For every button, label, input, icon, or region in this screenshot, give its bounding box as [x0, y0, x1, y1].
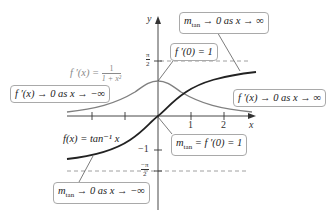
y-axis-label: y	[147, 13, 151, 24]
callout-mtan-neg: mtan → 0 as x → −∞	[53, 182, 150, 204]
y-tick-pi-half: π 2	[146, 51, 150, 68]
x-axis-label: x	[249, 119, 253, 130]
callout-fprime-pos: f ′(x) → 0 as x → ∞	[233, 89, 326, 107]
callout-fprime-neg: f ′(x) → 0 as x → −∞	[10, 85, 110, 103]
callout-f0: f ′(0) = 1	[170, 43, 218, 61]
y-tick-neg1: −1	[138, 143, 149, 154]
x-tick-1: 1	[188, 119, 193, 130]
y-tick-neg-pi-half: −π 2	[141, 161, 149, 178]
callout-mtan-eq: mtan = f ′(0) = 1	[171, 134, 247, 156]
arctan-label: f(x) = tan⁻¹ x	[63, 132, 119, 144]
y-axis-arrow-icon	[155, 16, 161, 24]
callout-mtan-pos: mtan → 0 as x → ∞	[179, 12, 269, 34]
x-tick-2: 2	[221, 119, 226, 130]
derivative-formula: f ′(x) = 11 + x²	[70, 64, 121, 83]
